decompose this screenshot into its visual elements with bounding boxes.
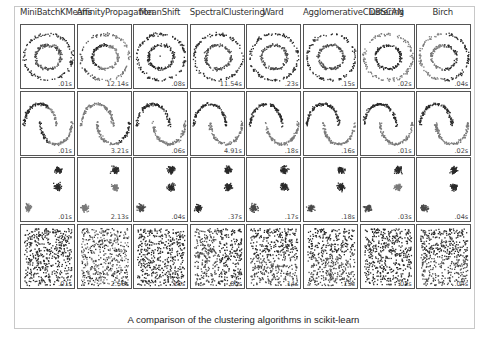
timing-label: 3.21s [111, 147, 129, 155]
scatter-points [191, 158, 244, 221]
scatter-points [134, 158, 187, 221]
figure-caption: A comparison of the clustering algorithm… [0, 314, 487, 325]
timing-label: .04s [454, 80, 468, 88]
scatter-points [417, 225, 470, 288]
timing-label: .18s [285, 147, 299, 155]
scatter-panel: .08s [133, 24, 188, 89]
scatter-points [21, 225, 74, 288]
scatter-points [247, 225, 300, 288]
scatter-points [78, 158, 131, 221]
scatter-panel: 2.56s [77, 224, 132, 289]
scatter-panel: 4.91s [190, 91, 245, 156]
column-titles: MiniBatchKMeansAffinityPropagationMeanSh… [0, 7, 487, 21]
scatter-points [191, 225, 244, 288]
scatter-points [247, 25, 300, 88]
timing-label: 2.13s [111, 213, 129, 221]
timing-label: .10s [171, 280, 185, 288]
timing-label: .18s [341, 213, 355, 221]
scatter-panel: .01s [20, 224, 75, 289]
scatter-points [134, 25, 187, 88]
scatter-panel: 2.13s [77, 157, 132, 222]
column-title: AgglomerativeClustering [303, 7, 356, 17]
column-title: AffinityPropagation [77, 7, 130, 17]
scatter-points [191, 92, 244, 155]
scatter-points [247, 92, 300, 155]
timing-label: .14s [285, 280, 299, 288]
scatter-panel: .03s [360, 157, 415, 222]
timing-label: .01s [58, 280, 72, 288]
scatter-points [417, 25, 470, 88]
scatter-points [361, 25, 414, 88]
scatter-points [21, 25, 74, 88]
scatter-panel: .04s [133, 157, 188, 222]
scatter-panel: .18s [303, 157, 358, 222]
timing-label: .23s [285, 80, 299, 88]
timing-label: .04s [454, 280, 468, 288]
timing-label: 11.54s [220, 80, 242, 88]
scatter-panel: .04s [416, 157, 471, 222]
scatter-panel: 11.54s [190, 24, 245, 89]
timing-label: .08s [171, 80, 185, 88]
scatter-panel: .80s [190, 224, 245, 289]
scatter-panel: .15s [303, 24, 358, 89]
scatter-points [21, 92, 74, 155]
timing-label: .16s [341, 147, 355, 155]
scatter-points [191, 25, 244, 88]
timing-label: .01s [58, 80, 72, 88]
scatter-panel: .01s [20, 91, 75, 156]
timing-label: .01s [58, 213, 72, 221]
scatter-points [78, 225, 131, 288]
scatter-points [78, 92, 131, 155]
column-title: DBSCAN [360, 7, 413, 17]
scatter-panel: .03s [360, 224, 415, 289]
scatter-points [134, 92, 187, 155]
timing-label: .01s [398, 147, 412, 155]
scatter-points [417, 92, 470, 155]
timing-label: .04s [171, 213, 185, 221]
timing-label: 2.56s [111, 280, 129, 288]
scatter-panel: .37s [190, 157, 245, 222]
timing-label: .01s [58, 147, 72, 155]
scatter-points [247, 158, 300, 221]
timing-label: .02s [454, 147, 468, 155]
column-title: Ward [246, 7, 299, 17]
scatter-points [78, 25, 131, 88]
scatter-points [134, 225, 187, 288]
scatter-points [21, 158, 74, 221]
scatter-panel: .04s [416, 24, 471, 89]
scatter-points [361, 92, 414, 155]
column-title: MeanShift [133, 7, 186, 17]
timing-label: .03s [398, 213, 412, 221]
timing-label: 12.14s [107, 80, 129, 88]
scatter-panel: .01s [20, 24, 75, 89]
scatter-points [361, 225, 414, 288]
scatter-panel: .17s [246, 157, 301, 222]
scatter-panel: .10s [133, 224, 188, 289]
scatter-points [304, 225, 357, 288]
scatter-panel: .16s [303, 91, 358, 156]
scatter-points [304, 158, 357, 221]
scatter-panel: 12.14s [77, 24, 132, 89]
scatter-panel: .18s [246, 91, 301, 156]
scatter-panel: .02s [360, 24, 415, 89]
scatter-points [361, 158, 414, 221]
scatter-panel: .02s [416, 91, 471, 156]
column-title: Birch [416, 7, 469, 17]
scatter-panel: .14s [246, 224, 301, 289]
timing-label: .03s [398, 280, 412, 288]
timing-label: .02s [398, 80, 412, 88]
column-title: SpectralClustering [190, 7, 243, 17]
timing-label: .37s [228, 213, 242, 221]
scatter-panel: 3.21s [77, 91, 132, 156]
scatter-panel: .04s [416, 224, 471, 289]
scatter-panel: .06s [133, 91, 188, 156]
scatter-points [417, 158, 470, 221]
timing-label: .04s [454, 213, 468, 221]
timing-label: .15s [341, 280, 355, 288]
timing-label: .15s [341, 80, 355, 88]
timing-label: .17s [285, 213, 299, 221]
scatter-panel: .01s [360, 91, 415, 156]
timing-label: .80s [228, 280, 242, 288]
timing-label: .06s [171, 147, 185, 155]
column-title: MiniBatchKMeans [20, 7, 73, 17]
